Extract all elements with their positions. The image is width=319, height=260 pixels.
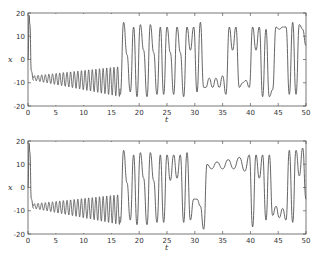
x-tick-label: 50 [302,109,311,117]
x-tick-label: 5 [54,109,58,117]
x-tick-label: 35 [218,237,227,245]
y-tick-label: -20 [14,231,25,239]
x-tick-label: 45 [274,237,283,245]
x-tick-label: 10 [79,109,88,117]
y-tick-label: 20 [16,138,25,146]
x-tick-label: 35 [218,109,227,117]
y-tick-label: 0 [21,56,25,64]
x-tick-label: 15 [107,109,116,117]
y-tick-label: 10 [16,161,25,169]
mask [34,14,120,105]
y-tick-label: 20 [16,10,25,18]
y-tick-label: 10 [16,33,25,41]
y-tick-label: 0 [21,184,25,192]
bottom-plot-panel: -20-1001020 05101520253035404550 x t [8,138,310,253]
x-tick-label: 20 [135,237,144,245]
x-tick-label: 30 [190,237,199,245]
y-tick-label: -20 [14,103,25,111]
x-tick-label: 0 [26,237,30,245]
x-tick-label: 15 [107,237,116,245]
y-tick-label: -10 [14,207,25,215]
x-tick-label: 20 [135,109,144,117]
lorenz-time-series-figure: -20-1001020 05101520253035404550 x t -20… [0,0,319,260]
x-tick-label: 30 [190,109,199,117]
y-tick-label: -10 [14,79,25,87]
top-y-axis-label: x [8,55,13,64]
x-tick-label: 40 [246,109,255,117]
bottom-y-axis-label: x [8,183,13,192]
top-plot-panel: -20-1001020 05101520253035404550 x t [8,10,310,125]
x-tick-label: 50 [302,237,311,245]
x-tick-label: 0 [26,109,30,117]
x-tick-label: 40 [246,237,255,245]
x-tick-label: 45 [274,109,283,117]
x-tick-label: 5 [54,237,58,245]
x-tick-label: 10 [79,237,88,245]
mask [34,142,120,233]
